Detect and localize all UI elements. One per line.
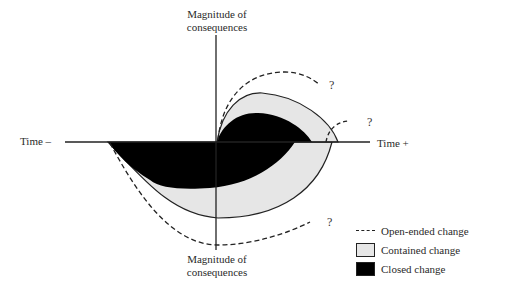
question-mark-middle: ? — [367, 115, 372, 130]
time-minus-label: Time – — [20, 135, 51, 148]
legend-label: Closed change — [381, 263, 445, 275]
top-axis-label-line2: consequences — [172, 21, 262, 34]
bottom-axis-label-line1: Magnitude of — [172, 253, 262, 266]
legend-item-closed: Closed change — [356, 259, 469, 278]
legend: Open-ended change Contained change Close… — [356, 221, 469, 278]
bottom-axis-label-line2: consequences — [172, 266, 262, 279]
top-axis-label-line1: Magnitude of — [172, 8, 262, 21]
legend-label: Contained change — [381, 244, 460, 256]
question-mark-lower: ? — [327, 215, 332, 230]
time-plus-label: Time + — [377, 137, 409, 150]
dashed-line-icon — [356, 230, 375, 231]
question-mark-upper: ? — [329, 78, 334, 93]
gray-swatch-icon — [356, 243, 375, 257]
bottom-axis-label: Magnitude of consequences — [172, 253, 262, 279]
legend-item-contained: Contained change — [356, 240, 469, 259]
legend-label: Open-ended change — [381, 225, 469, 237]
legend-item-open-ended: Open-ended change — [356, 221, 469, 240]
black-swatch-icon — [356, 262, 375, 276]
top-axis-label: Magnitude of consequences — [172, 8, 262, 34]
